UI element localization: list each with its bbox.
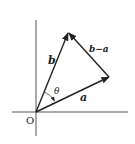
angle-arc xyxy=(45,92,55,101)
label-a: a xyxy=(80,91,87,104)
vector-b-minus-a xyxy=(69,33,109,77)
vector-a xyxy=(36,77,109,112)
theta-label: θ xyxy=(54,86,60,96)
origin-label: O xyxy=(26,115,34,126)
label-b: b xyxy=(48,54,56,67)
vector-b xyxy=(36,33,68,112)
vector-diagram: O b b−a a θ xyxy=(0,0,135,144)
label-b-minus-a: b−a xyxy=(89,44,109,54)
